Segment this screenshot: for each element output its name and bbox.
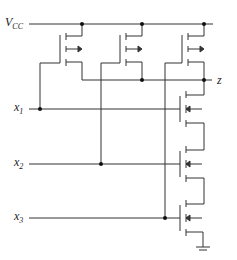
load-transistor-1 bbox=[40, 24, 82, 109]
junction-dots bbox=[38, 22, 206, 220]
load-transistor-2 bbox=[101, 24, 142, 164]
pulldown-transistor-3 bbox=[180, 200, 204, 247]
circuit-diagram: VCC z x1 x2 x3 bbox=[0, 0, 237, 260]
pulldown-transistor-2 bbox=[180, 146, 204, 204]
circuit-schematic bbox=[0, 0, 237, 260]
ground-icon bbox=[196, 247, 210, 250]
load-transistor-3 bbox=[165, 24, 204, 218]
pulldown-transistor-1 bbox=[180, 80, 204, 150]
